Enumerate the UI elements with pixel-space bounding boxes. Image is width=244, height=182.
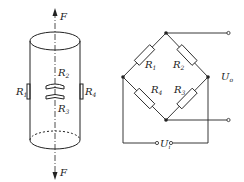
label-r4-cyl: R4	[84, 86, 97, 98]
label-r4-bridge: R4	[150, 84, 163, 96]
label-r3-cyl: R3	[57, 103, 70, 115]
bridge-resistors	[134, 45, 197, 109]
output-terminal-top	[227, 31, 230, 34]
label-r1-bridge: R1	[144, 59, 156, 71]
label-r1-cyl: R1	[15, 86, 27, 98]
force-label-bottom: F	[59, 167, 68, 178]
bridge-nodes	[121, 31, 210, 122]
label-r2-cyl: R2	[57, 67, 70, 79]
strain-gauge-diagram: F F R1 R2 R3 R4	[0, 0, 244, 182]
label-r2-bridge: R2	[172, 59, 185, 71]
input-terminal-left	[155, 141, 158, 144]
arrow-down-icon	[53, 172, 58, 180]
gauge-r1	[27, 84, 30, 99]
output-terminal-bottom	[227, 118, 230, 121]
label-r3-bridge: R3	[173, 84, 186, 96]
label-input-voltage: Ui	[160, 138, 170, 150]
gauge-r3	[46, 95, 64, 100]
gauge-r4	[80, 84, 83, 99]
terminals	[155, 31, 230, 144]
label-output-voltage: Uo	[221, 71, 233, 83]
force-label-top: F	[59, 11, 68, 22]
arrow-up-icon	[53, 8, 58, 16]
